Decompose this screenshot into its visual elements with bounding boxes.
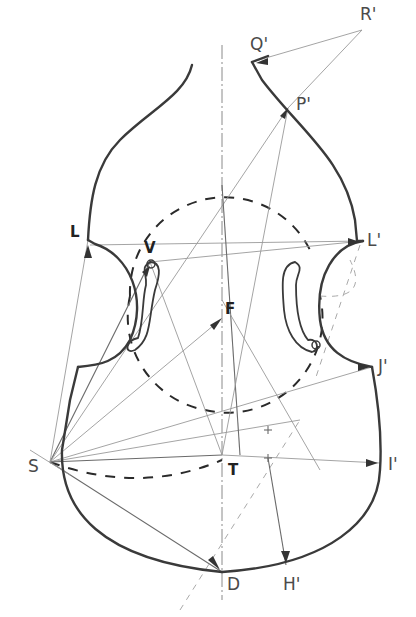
label-r: R' (360, 4, 377, 24)
dashed-arc-lower-right (205, 296, 323, 413)
dashed-arc-lower-left (128, 296, 205, 410)
label-d: D (227, 574, 240, 594)
label-l-left: L (70, 223, 80, 241)
label-t: T (228, 461, 239, 479)
label-h: H' (283, 574, 300, 594)
violin-outline (62, 56, 381, 572)
dashed-arc-right (320, 260, 356, 296)
construction-lines (90, 30, 380, 565)
label-j: J' (377, 356, 388, 376)
label-q: Q' (250, 34, 268, 54)
crosshair-markers (264, 426, 272, 462)
f-hole-right (283, 262, 320, 352)
construction-lines-from-s (30, 108, 372, 572)
label-p: P' (296, 94, 311, 114)
violin-construction-diagram: Q' R' P' L L' V F J' S T I' D H' (0, 0, 416, 617)
label-l-right: L' (367, 230, 381, 250)
label-i: I' (388, 454, 398, 474)
label-f: F (225, 300, 235, 318)
label-s: S (28, 456, 39, 476)
dashed-arc-s-t (50, 460, 222, 478)
label-v: V (144, 239, 156, 257)
